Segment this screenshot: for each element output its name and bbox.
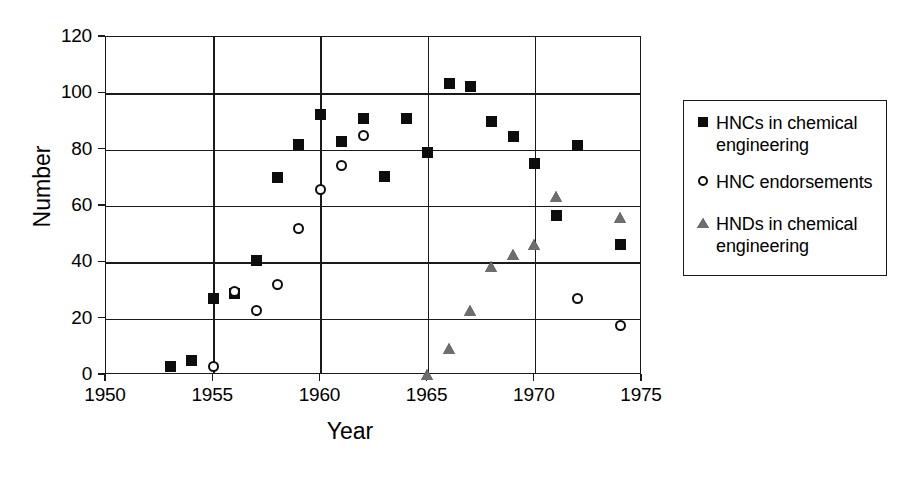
data-point-endorsement [615,320,626,331]
y-tick-mark [98,148,105,149]
y-tick-mark [98,92,105,93]
data-point-hnc [251,255,262,266]
plot-area [105,36,641,374]
gridline-vertical [535,37,536,373]
data-point-hnc [165,361,176,372]
x-tick-label: 1970 [494,384,574,406]
data-point-hnc [229,288,240,299]
y-tick-label: 20 [32,308,92,327]
y-tick-label: 0 [32,364,92,383]
data-point-endorsement [229,286,240,297]
x-tick-label: 1955 [172,384,252,406]
y-tick-label: 60 [32,195,92,214]
gridline-horizontal [106,93,640,94]
data-point-hnc [615,239,626,250]
y-tick-mark [98,204,105,205]
data-point-hnd [550,191,562,202]
gridline-horizontal [106,206,640,207]
x-tick-mark [104,374,105,381]
data-point-endorsement [358,130,369,141]
data-point-hnd [507,249,519,260]
data-point-endorsement [251,305,262,316]
data-point-hnd [614,212,626,223]
data-point-hnc [444,78,455,89]
legend-entry-endorsements: HNC endorsements [695,171,877,193]
x-tick-mark [319,374,320,381]
y-tick-label: 40 [32,251,92,270]
x-tick-label: 1960 [279,384,359,406]
data-point-hnc [508,131,519,142]
chart-figure: Number Year 020406080100120 195019551960… [0,0,913,477]
legend-entry-label: HNC endorsements [716,171,872,193]
y-tick-mark [98,35,105,36]
x-tick-mark [533,374,534,381]
gridline-horizontal [106,150,640,151]
x-axis-title: Year [270,418,430,445]
data-point-hnc [293,139,304,150]
x-tick-mark [640,374,641,381]
x-tick-mark [212,374,213,381]
y-tick-mark [98,261,105,262]
data-point-endorsement [336,160,347,171]
data-point-hnd [443,343,455,354]
gridline-vertical [213,37,214,373]
x-tick-mark [426,374,427,381]
filled-triangle-marker-icon [695,218,711,228]
x-tick-label: 1950 [65,384,145,406]
gridline-horizontal [106,262,640,263]
legend-entry-hnds: HNDs in chemical engineering [695,213,877,257]
data-point-endorsement [572,293,583,304]
gridline-vertical [428,37,429,373]
y-tick-label: 120 [32,26,92,45]
data-point-endorsement [293,223,304,234]
legend-entry-label: HNDs in chemical engineering [716,213,877,257]
x-tick-label: 1975 [601,384,681,406]
data-point-hnd [464,305,476,316]
data-point-hnc [358,113,369,124]
data-point-hnc [336,136,347,147]
data-point-hnc [272,172,283,183]
data-point-hnc [486,116,497,127]
y-tick-mark [98,317,105,318]
data-point-hnc [551,210,562,221]
x-tick-label: 1965 [387,384,467,406]
data-point-hnc [401,113,412,124]
data-point-endorsement [272,279,283,290]
y-tick-label: 80 [32,139,92,158]
y-axis-title: Number [29,107,56,267]
gridline-vertical [320,37,321,373]
gridline-horizontal [106,319,640,320]
filled-square-marker-icon [695,117,711,127]
open-circle-marker-icon [695,176,711,186]
y-tick-label: 100 [32,82,92,101]
chart-legend: HNCs in chemical engineering HNC endorse… [683,100,887,276]
legend-entry-hncs: HNCs in chemical engineering [695,112,877,156]
legend-entry-label: HNCs in chemical engineering [716,112,877,156]
data-point-hnc [379,171,390,182]
data-point-hnc [465,81,476,92]
data-point-hnc [186,355,197,366]
